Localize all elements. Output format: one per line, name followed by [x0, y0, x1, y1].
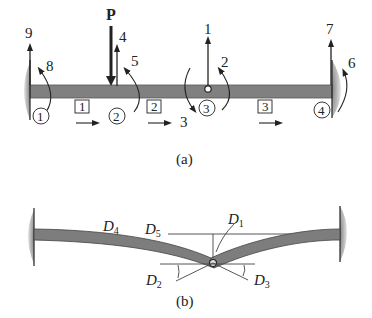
- dof-7-label: 7: [326, 21, 334, 37]
- load-p-arrowhead: [106, 76, 116, 86]
- node-2: 2: [109, 108, 125, 124]
- svg-text:4: 4: [318, 103, 325, 118]
- svg-text:1: 1: [37, 109, 44, 124]
- label-d3: D3: [253, 272, 270, 290]
- element-2: 2: [147, 99, 168, 123]
- svg-text:3: 3: [203, 101, 210, 116]
- dof-8-label: 8: [46, 58, 54, 74]
- dof-1-label: 1: [204, 21, 212, 37]
- hinge: [205, 86, 211, 92]
- caption-b: (b): [176, 293, 194, 310]
- deflected-beam-right: [211, 229, 340, 268]
- dof-2-label: 2: [221, 54, 229, 70]
- figure-b: D1 D2 D3 D4 D5 (b): [28, 206, 347, 310]
- caption-a: (a): [176, 151, 193, 168]
- load-p-label: P: [106, 6, 116, 23]
- dof-9-label: 9: [25, 25, 33, 41]
- svg-text:2: 2: [113, 109, 120, 124]
- element-1: 1: [75, 99, 96, 123]
- node-4: 4: [314, 102, 330, 118]
- label-d2: D2: [145, 272, 162, 290]
- element-3: 3: [258, 99, 279, 123]
- svg-text:1: 1: [79, 99, 86, 114]
- right-fixed-support-b: [340, 206, 347, 262]
- beam-diagram: 9 8 P 4 5 1 2 3 7 6 1: [0, 0, 372, 318]
- dof-5-label: 5: [131, 53, 139, 69]
- svg-text:3: 3: [262, 99, 269, 114]
- node-3: 3: [199, 100, 215, 116]
- beam: [30, 85, 332, 98]
- figure-a: 9 8 P 4 5 1 2 3 7 6 1: [24, 6, 356, 168]
- label-d4: D4: [102, 218, 119, 236]
- node-1: 1: [33, 108, 49, 124]
- dof-4-label: 4: [119, 29, 127, 45]
- deflected-beam-left: [34, 229, 214, 268]
- label-d1: D1: [227, 211, 244, 229]
- left-fixed-support-b: [28, 210, 34, 264]
- dof-3-label: 3: [180, 114, 188, 130]
- svg-text:2: 2: [151, 99, 158, 114]
- dof-6-label: 6: [348, 55, 356, 71]
- left-fixed-support: [24, 62, 30, 120]
- label-d5: D5: [144, 221, 161, 239]
